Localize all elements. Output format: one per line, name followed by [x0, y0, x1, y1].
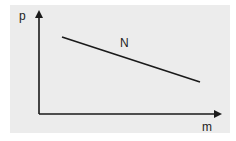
x-axis-label: m: [202, 121, 212, 133]
diagram-svg: [0, 0, 236, 141]
curve-n-line: [62, 37, 200, 82]
y-axis-label: p: [19, 10, 26, 22]
curve-label: N: [120, 37, 129, 49]
